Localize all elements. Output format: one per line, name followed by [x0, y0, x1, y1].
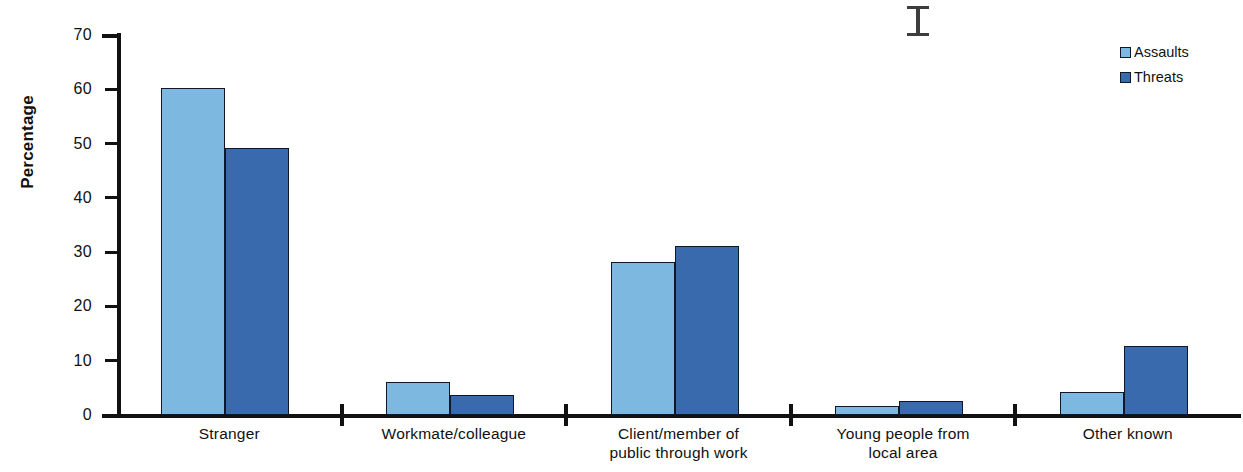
chart-legend: Assaults Threats: [1120, 44, 1189, 94]
y-tick-40: [105, 196, 117, 199]
bar-threats-1: [450, 395, 514, 415]
y-tick-30: [105, 251, 117, 254]
y-tick-label-10: 10: [32, 352, 92, 370]
y-tick-label-0: 0: [32, 406, 92, 424]
y-tick-50: [105, 142, 117, 145]
y-tick-10: [105, 359, 117, 362]
legend-item-assaults: Assaults: [1120, 44, 1189, 60]
bar-chart: Percentage 010203040506070 StrangerWorkm…: [0, 0, 1243, 472]
legend-swatch-assaults-icon: [1120, 47, 1131, 58]
x-axis-label-4: Other known: [1015, 424, 1240, 443]
bar-assaults-1: [386, 382, 450, 415]
legend-swatch-threats-icon: [1120, 72, 1131, 83]
i-beam-cursor-icon: [907, 6, 929, 36]
bar-threats-3: [899, 401, 963, 415]
y-tick-label-60: 60: [32, 80, 92, 98]
bar-threats-2: [675, 246, 739, 415]
x-axis-label-2: Client/member ofpublic through work: [566, 424, 791, 462]
y-tick-label-30: 30: [32, 243, 92, 261]
x-axis-label-3: Young people fromlocal area: [791, 424, 1016, 462]
legend-item-threats: Threats: [1120, 69, 1189, 85]
bars-area: [117, 35, 1240, 415]
y-tick-label-50: 50: [32, 135, 92, 153]
y-tick-label-70: 70: [32, 26, 92, 44]
y-tick-label-20: 20: [32, 297, 92, 315]
y-tick-20: [105, 305, 117, 308]
legend-label-threats: Threats: [1134, 69, 1183, 85]
bar-threats-4: [1124, 346, 1188, 415]
bar-assaults-2: [611, 262, 675, 415]
bar-assaults-3: [835, 406, 899, 415]
x-axis-label-1: Workmate/colleague: [342, 424, 567, 443]
bar-threats-0: [225, 148, 289, 415]
bar-assaults-4: [1060, 392, 1124, 415]
x-axis-label-0: Stranger: [117, 424, 342, 443]
bar-assaults-0: [161, 88, 225, 415]
y-tick-label-40: 40: [32, 189, 92, 207]
y-tick-60: [105, 88, 117, 91]
legend-label-assaults: Assaults: [1134, 44, 1189, 60]
